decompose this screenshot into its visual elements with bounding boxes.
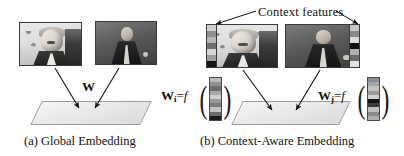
formula-wj-weight: W [318,88,331,103]
caption-panel-b: (b) Context-Aware Embedding [200,134,354,149]
embedding-plane-b [231,101,351,125]
feature-band-6 [207,61,216,67]
man-background-person [259,31,277,67]
feature-vector-wj [367,77,380,121]
woman-head [316,30,331,44]
photo-man-a [19,22,82,66]
bracket-open-wj: ( [357,84,365,114]
context-features-title: Context features [258,5,343,20]
formula-wj: Wj=f [318,88,345,104]
formula-wi: Wi=f [161,88,187,104]
formula-wi-weight: W [161,88,174,103]
figure-context-aware-embedding: W (a) Global Embedding Context features [0,0,404,156]
feature-band-9 [210,116,221,120]
photo-man-b [206,24,278,68]
photo-woman-a [95,21,157,65]
arrow-context-to-man-strip [216,11,256,24]
bracket-close-wj: ) [381,84,389,114]
photo-woman-b [285,24,360,68]
context-feature-strip-man [207,25,217,67]
context-feature-strip-woman [349,25,359,67]
bracket-open-wi: ( [199,84,207,114]
formula-wj-function: f [341,88,345,103]
embedding-plane-a [30,101,152,125]
feature-vector-wi [209,77,222,121]
feature-band-6 [350,61,359,67]
photo-woman-a-scene [96,22,156,64]
man-background-person [65,29,81,65]
formula-wi-function: f [184,88,188,103]
mapping-label-w: W [82,79,95,95]
feature-vector-wi-group: ( ) [197,77,233,121]
woman-head [121,27,133,41]
photo-man-a-scene [20,23,81,65]
feature-band-9 [368,116,379,120]
bracket-close-wi: ) [223,84,231,114]
photo-man-b-scene [207,25,277,67]
caption-panel-a: (a) Global Embedding [24,134,136,149]
feature-vector-wj-group: ( ) [355,77,391,121]
woman-hand [143,52,148,57]
formula-wi-equals: = [177,88,184,103]
